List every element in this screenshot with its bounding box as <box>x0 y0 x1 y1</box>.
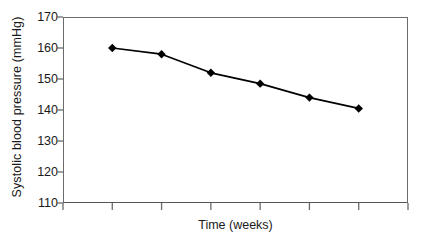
data-point-marker <box>108 44 116 52</box>
chart-graphics-layer <box>0 0 423 250</box>
x-axis-ticks <box>63 203 408 210</box>
data-point-marker <box>157 50 165 58</box>
x-axis-title: Time (weeks) <box>63 218 408 232</box>
data-series-line <box>112 48 358 108</box>
y-axis-ticks <box>57 17 63 203</box>
data-point-marker <box>256 79 264 87</box>
data-point-marker <box>355 104 363 112</box>
data-point-marker <box>207 69 215 77</box>
data-point-marker <box>305 93 313 101</box>
systolic-blood-pressure-line-chart: Systolic blood pressure (mmHg) 110120130… <box>0 0 423 250</box>
